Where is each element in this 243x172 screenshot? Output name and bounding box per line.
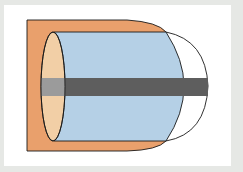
capsule-diagram: [0, 0, 243, 172]
central-rod-inside: [41, 78, 65, 96]
central-rod: [64, 78, 208, 96]
